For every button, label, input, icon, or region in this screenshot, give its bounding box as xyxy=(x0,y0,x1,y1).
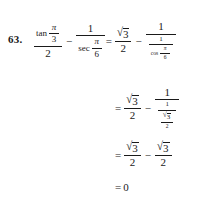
fraction-sqrt3-over-2: √ 3 2 xyxy=(161,112,173,130)
denominator-nested-fraction: 1 √ 3 2 xyxy=(155,101,179,129)
radical-sign: √ xyxy=(163,111,167,119)
numerator-1: 1 xyxy=(162,87,172,99)
radicand-3: 3 xyxy=(123,28,130,40)
fraction-pi-over-3: π 3 xyxy=(49,23,59,45)
term-sqrt3-over-2: √ 3 2 xyxy=(115,27,132,55)
term-1-over-reciprocal-cos: 1 1 cos π 6 xyxy=(146,21,176,60)
term-sqrt3-over-2-right: √ 3 2 xyxy=(155,141,172,169)
radical-sqrt-3: √ 3 xyxy=(163,112,171,121)
radical-sign: √ xyxy=(117,27,123,40)
equals-sign-4: = xyxy=(115,181,123,193)
math-problem-solution: 63. tan π 3 2 − 1 sec π xyxy=(0,0,199,207)
denominator-2: 2 xyxy=(118,43,128,55)
fraction-pi-over-6: π 6 xyxy=(92,37,102,59)
cos-function-label: cos xyxy=(151,51,159,57)
denominator-2: 2 xyxy=(128,110,138,122)
final-answer-value: 0 xyxy=(123,181,129,193)
radical-sign: √ xyxy=(157,141,163,154)
radicand-3: 3 xyxy=(132,95,139,107)
fraction-1-over-cos-pi-6: 1 cos π 6 xyxy=(149,36,173,61)
term-1-over-reciprocal-sqrt3-2: 1 1 √ 3 xyxy=(155,87,179,130)
denominator-sqrt3-over-2: √ 3 2 xyxy=(158,112,176,130)
fraction-bar xyxy=(76,35,105,36)
pi-symbol: π xyxy=(162,46,169,52)
denominator-3: 3 xyxy=(50,35,59,44)
radical-sqrt-3: √ 3 xyxy=(157,141,170,154)
equals-sign-2: = xyxy=(115,102,123,114)
solution-line-4: = 0 xyxy=(115,178,129,196)
numerator-1: 1 xyxy=(157,36,165,43)
denominator-nested-fraction: 1 cos π 6 xyxy=(146,36,176,61)
radical-sign: √ xyxy=(126,141,132,154)
fraction-pi-over-6: π 6 xyxy=(160,46,170,61)
radical-sqrt-3: √ 3 xyxy=(117,27,130,40)
equals-sign-1: = xyxy=(106,35,114,47)
denominator-2: 2 xyxy=(128,157,138,169)
numerator-sqrt-3: √ 3 xyxy=(115,27,132,40)
radical-sign: √ xyxy=(126,94,132,107)
radical-sqrt-3: √ 3 xyxy=(126,94,139,107)
denominator-6: 6 xyxy=(92,50,101,59)
problem-number: 63. xyxy=(8,33,22,45)
fraction-1-over-sqrt3-over-2: 1 √ 3 2 xyxy=(158,101,176,129)
term-1-over-sec-pi-6: 1 sec π 6 xyxy=(76,23,105,59)
denominator-6: 6 xyxy=(162,55,169,61)
minus-operator: − xyxy=(142,149,154,161)
equals-sign-3: = xyxy=(115,149,123,161)
denominator-2: 2 xyxy=(159,157,169,169)
solution-line-1: tan π 3 2 − 1 sec π 6 xyxy=(33,12,177,70)
denominator-sec-pi-6: sec π 6 xyxy=(76,37,105,59)
radical-sqrt-3: √ 3 xyxy=(126,141,139,154)
numerator-sqrt-3: √ 3 xyxy=(124,94,141,107)
solution-line-2: = √ 3 2 − 1 1 xyxy=(115,80,180,136)
fraction-bar xyxy=(158,110,176,111)
numerator-sqrt-3: √ 3 xyxy=(161,112,173,121)
term-sqrt3-over-2-left: √ 3 2 xyxy=(124,141,141,169)
numerator-tan-pi-3: tan π 3 xyxy=(34,23,62,45)
fraction-bar xyxy=(149,44,173,45)
sec-function-label: sec xyxy=(78,44,91,53)
radicand-3: 3 xyxy=(132,142,139,154)
minus-operator: − xyxy=(142,102,154,114)
numerator-sqrt-3: √ 3 xyxy=(155,141,172,154)
pi-symbol: π xyxy=(50,23,59,32)
denominator-2: 2 xyxy=(43,48,53,60)
denominator-cos-pi-6: cos π 6 xyxy=(149,46,173,61)
minus-operator: − xyxy=(63,35,75,47)
minus-operator: − xyxy=(132,35,144,47)
denominator-2: 2 xyxy=(164,124,171,130)
pi-symbol: π xyxy=(92,37,101,46)
radicand-3: 3 xyxy=(163,142,170,154)
term-tan-pi-3-over-2: tan π 3 2 xyxy=(34,23,62,59)
numerator-1: 1 xyxy=(156,21,166,33)
numerator-1: 1 xyxy=(86,23,96,35)
tan-function-label: tan xyxy=(36,29,48,38)
radicand-3: 3 xyxy=(167,113,172,121)
numerator-1: 1 xyxy=(163,101,171,108)
numerator-sqrt-3: √ 3 xyxy=(124,141,141,154)
term-sqrt3-over-2: √ 3 2 xyxy=(124,94,141,122)
solution-line-3: = √ 3 2 − √ 3 2 xyxy=(115,138,173,172)
